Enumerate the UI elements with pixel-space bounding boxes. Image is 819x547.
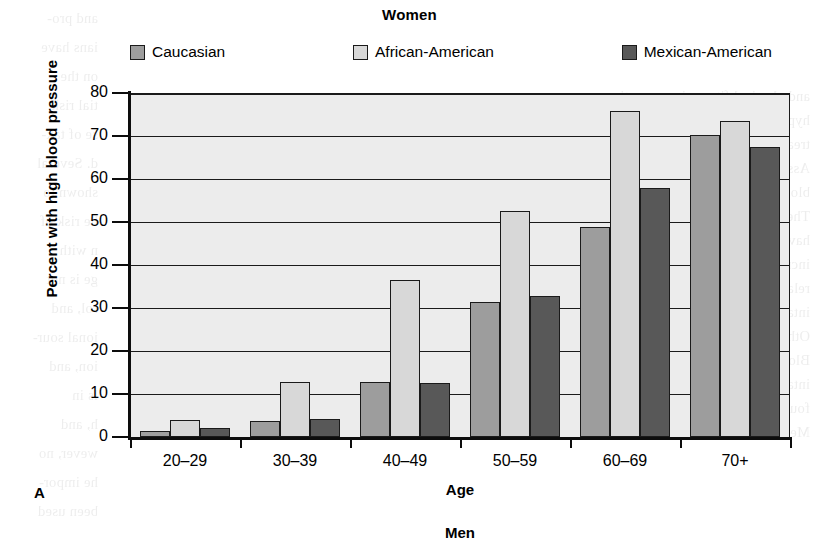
x-axis-tick-label: 30–39 — [235, 452, 355, 470]
y-axis-tick-label: 30 — [74, 298, 108, 316]
x-axis-tick — [350, 437, 352, 448]
next-panel-title: Men — [130, 524, 790, 541]
y-axis-line — [128, 91, 131, 439]
bar — [640, 188, 670, 437]
bar — [690, 135, 720, 437]
x-axis-tick — [460, 437, 462, 448]
y-axis-tick-label: 70 — [74, 126, 108, 144]
legend-label: Mexican-American — [644, 43, 772, 61]
bar — [470, 302, 500, 437]
legend-swatch-icon — [622, 45, 637, 60]
legend-swatch-icon — [353, 45, 368, 60]
y-axis-tick — [112, 92, 128, 94]
y-axis-tick — [112, 264, 128, 266]
y-axis-tick-label: 20 — [74, 341, 108, 359]
figure-panel-a: Women CaucasianAfrican-AmericanMexican-A… — [0, 0, 819, 547]
bar — [170, 420, 200, 437]
legend-label: Caucasian — [152, 43, 225, 61]
bar — [280, 382, 310, 437]
chart-title: Women — [0, 6, 819, 23]
bar — [720, 121, 750, 437]
bar — [200, 428, 230, 437]
x-axis-tick — [240, 437, 242, 448]
bar — [750, 147, 780, 437]
bar — [530, 296, 560, 437]
bar — [580, 227, 610, 437]
y-axis-tick-label: 80 — [74, 83, 108, 101]
y-axis-tick — [112, 436, 128, 438]
y-axis-tick — [112, 350, 128, 352]
x-axis-tick-label: 60–69 — [565, 452, 685, 470]
y-axis-tick — [112, 393, 128, 395]
y-axis-tick-label: 40 — [74, 255, 108, 273]
panel-label: A — [34, 484, 45, 501]
x-axis-tick — [680, 437, 682, 448]
y-axis-tick-label: 0 — [74, 427, 108, 445]
x-axis-tick — [570, 437, 572, 448]
x-axis-tick — [790, 437, 792, 448]
y-axis-tick — [112, 178, 128, 180]
legend-item-mexican-american[interactable]: Mexican-American — [622, 43, 772, 61]
legend-swatch-icon — [130, 45, 145, 60]
legend-item-african-american[interactable]: African-American — [353, 43, 494, 61]
y-axis-tick-label: 50 — [74, 212, 108, 230]
chart-legend: CaucasianAfrican-AmericanMexican-America… — [130, 40, 790, 64]
y-axis-title: Percent with high blood pressure — [43, 49, 60, 309]
x-axis-tick-label: 50–59 — [455, 452, 575, 470]
bar — [310, 419, 340, 437]
y-axis-tick — [112, 135, 128, 137]
x-axis-title: Age — [130, 481, 790, 498]
plot-area — [130, 93, 790, 437]
bar — [610, 111, 640, 437]
y-axis-tick-label: 10 — [74, 384, 108, 402]
y-axis-tick-label: 60 — [74, 169, 108, 187]
y-axis-tick — [112, 307, 128, 309]
x-axis-tick — [130, 437, 132, 448]
y-axis-tick — [112, 221, 128, 223]
x-axis-line — [128, 437, 790, 440]
bar — [360, 382, 390, 437]
x-axis-tick-label: 40–49 — [345, 452, 465, 470]
x-axis-tick-label: 20–29 — [125, 452, 245, 470]
bar — [390, 280, 420, 437]
legend-item-caucasian[interactable]: Caucasian — [130, 43, 225, 61]
x-axis-tick-label: 70+ — [675, 452, 795, 470]
bar — [420, 383, 450, 437]
bar — [500, 211, 530, 437]
legend-label: African-American — [375, 43, 494, 61]
bar — [250, 421, 280, 437]
